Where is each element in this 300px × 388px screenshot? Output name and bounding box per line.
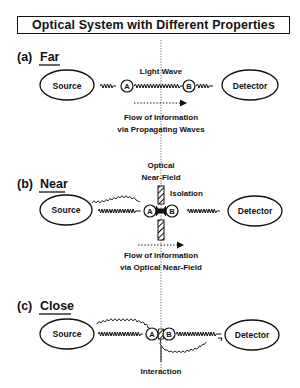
- wave-source-to-a: [100, 84, 116, 88]
- panel-close: (c) Close Source Detector A B Interactio…: [17, 299, 279, 376]
- wave-source-to-a: [98, 209, 141, 213]
- detector-label: Detector: [233, 81, 268, 91]
- panel-c-label: Close: [40, 299, 74, 313]
- wave-b-to-detector: [196, 84, 213, 88]
- wave-b-to-detector: [187, 209, 220, 213]
- optical-label: Optical: [147, 161, 174, 170]
- source-label: Source: [53, 81, 82, 91]
- source-label: Source: [52, 205, 81, 215]
- panel-b-label: Near: [40, 177, 68, 191]
- interaction-label: Interaction: [141, 367, 182, 376]
- panel-near: (b) Near Optical Near-Field Source Detec…: [17, 161, 282, 272]
- node-a-label: A: [124, 82, 130, 91]
- node-a-label: A: [149, 330, 155, 339]
- isolation-barrier-top: [158, 186, 164, 204]
- panel-a-label: Far: [40, 50, 60, 64]
- light-wave-label: Light Wave: [140, 67, 183, 76]
- wave-source-to-a: [98, 332, 143, 336]
- optical-system-diagram: (a) Far Source Detector Light Wave A B F…: [0, 0, 300, 388]
- node-b-label: B: [169, 207, 175, 216]
- panel-c-prefix: (c): [17, 299, 32, 313]
- panel-a-prefix: (a): [17, 50, 32, 64]
- wave-a-to-b: [134, 84, 185, 88]
- flow-label-line1: Flow of Information: [124, 113, 198, 122]
- isolation-label: Isolation: [170, 189, 203, 198]
- isolation-barrier-bottom: [158, 220, 164, 240]
- flow-label-line2: via Propagating Waves: [117, 125, 205, 134]
- near-field-label: Near-Field: [141, 173, 180, 182]
- node-b-label: B: [166, 330, 172, 339]
- stray-wave: [92, 196, 140, 203]
- detector-label: Detector: [238, 206, 273, 216]
- node-b-label: B: [186, 82, 192, 91]
- flow-label-line2: via Optical Near-Field: [120, 263, 202, 272]
- node-a-label: A: [147, 207, 153, 216]
- panel-far: (a) Far Source Detector Light Wave A B F…: [17, 50, 278, 134]
- detector-label: Detector: [235, 330, 270, 340]
- flow-label-line1: Flow of Information: [124, 251, 198, 260]
- wave-b-to-detector: [176, 332, 221, 336]
- source-label: Source: [53, 329, 82, 339]
- panel-b-prefix: (b): [17, 177, 33, 191]
